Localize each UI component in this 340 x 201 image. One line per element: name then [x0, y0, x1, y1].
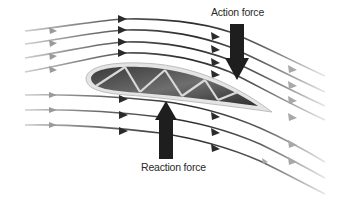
- flow-arrow-icon: [288, 113, 297, 121]
- streamline: [25, 95, 325, 162]
- flow-arrow-icon: [288, 157, 297, 165]
- streamlines-below: [25, 95, 325, 194]
- flow-arrow-icon: [288, 81, 297, 89]
- flow-arrow-icon: [118, 49, 127, 57]
- flow-arrow-icon: [119, 127, 128, 135]
- flow-arrow-icon: [49, 53, 57, 60]
- flow-arrow-icon: [262, 158, 268, 164]
- flow-arrow-icon: [288, 65, 297, 73]
- flow-arrow-icon: [211, 45, 220, 53]
- flow-arrow-icon: [49, 122, 57, 128]
- flow-arrow-icon: [211, 58, 220, 66]
- reaction-force-arrow: [155, 101, 177, 159]
- flow-arrow-icon: [118, 15, 127, 23]
- flow-arrow-icon: [119, 111, 128, 119]
- flow-arrow-icon: [49, 107, 57, 113]
- flow-arrow-icon: [49, 40, 57, 47]
- action-force-label: Action force: [211, 6, 264, 18]
- flow-arrow-icon: [211, 70, 220, 78]
- flow-arrow-icon: [288, 140, 297, 148]
- flow-arrow-icon: [119, 95, 128, 103]
- flow-arrow-icon: [118, 26, 127, 34]
- flow-arrow-icon: [288, 96, 297, 104]
- streamline: [25, 125, 325, 194]
- reaction-force-label: Reaction force: [141, 161, 206, 173]
- flow-arrow-icon: [211, 32, 220, 40]
- flow-arrow-icon: [118, 38, 127, 46]
- flow-arrow-icon: [49, 92, 57, 98]
